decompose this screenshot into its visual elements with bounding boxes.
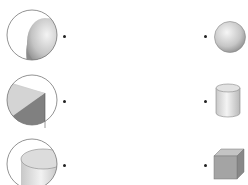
cylinder-figure bbox=[214, 83, 242, 119]
closeup-cylinder bbox=[5, 137, 60, 185]
sphere-figure bbox=[213, 20, 247, 54]
match-dot-right-2[interactable] bbox=[204, 100, 207, 103]
match-dot-left-2[interactable] bbox=[63, 100, 66, 103]
match-dot-right-1[interactable] bbox=[204, 35, 207, 38]
match-dot-left-3[interactable] bbox=[63, 164, 66, 167]
closeup-cube-corner bbox=[5, 73, 60, 128]
match-dot-right-3[interactable] bbox=[204, 164, 207, 167]
closeup-sphere bbox=[5, 8, 60, 63]
match-dot-left-1[interactable] bbox=[63, 35, 66, 38]
cube-figure bbox=[213, 148, 245, 180]
